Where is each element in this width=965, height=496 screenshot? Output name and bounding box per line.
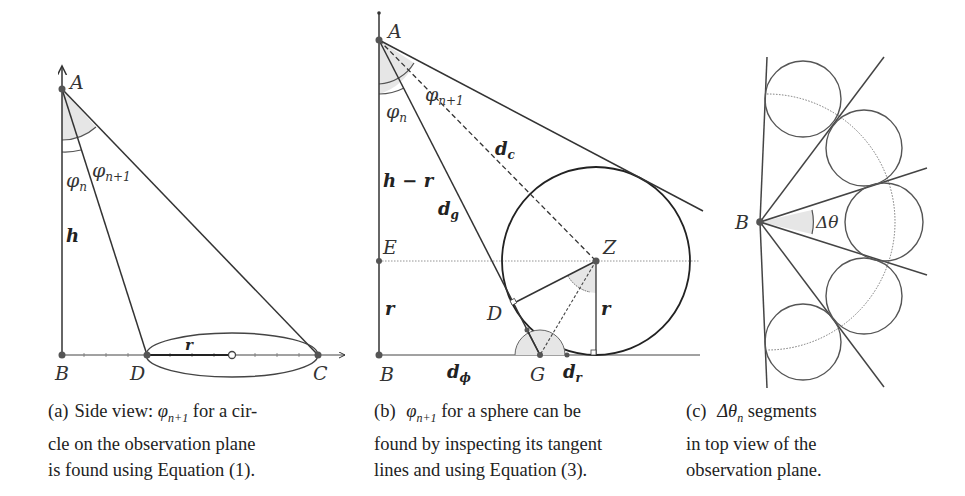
ray-3: [760, 168, 927, 222]
label-B: B: [54, 362, 69, 384]
point-B: [59, 352, 66, 359]
panel-b-diagram: A E B Z D G φn φn+1 dc dg h − r r r dϕ d…: [376, 11, 704, 385]
point-D: [144, 352, 151, 359]
point-A: [59, 86, 66, 93]
caption-b: (b) φn+1 for a sphere can be found by in…: [374, 398, 674, 483]
ray-1: [760, 57, 767, 222]
circle-4: [826, 258, 902, 334]
label-h-minus-r: h − r: [383, 170, 435, 191]
label-r: r: [185, 336, 194, 354]
point-B: [376, 352, 383, 359]
point-E: [376, 258, 382, 264]
label-dg: dg: [438, 198, 459, 222]
ray-6: [760, 222, 767, 388]
line-AG-dg: [379, 40, 540, 355]
angle-phi-n1-fill: [62, 89, 96, 140]
point-A: [376, 37, 383, 44]
caption-a-line3: is found using Equation (1).: [48, 457, 344, 483]
caption-c-line1: (c) Δθn segments: [686, 398, 861, 431]
label-phi-n: φn: [66, 169, 87, 194]
angle-phi-n-arc: [62, 150, 81, 152]
caption-c: (c) Δθn segments in top view of the obse…: [686, 398, 861, 483]
label-phi-n: φn: [386, 100, 407, 125]
caption-a-line1: (a)Side view: φn+1 for a cir-: [48, 398, 344, 431]
label-A: A: [386, 20, 402, 42]
line-AZ-dc: [379, 40, 596, 261]
circle-2: [826, 110, 902, 186]
angle-at-G-fill: [515, 330, 565, 355]
point-Z: [593, 258, 600, 265]
angle-phi-n1-fill: [379, 40, 414, 94]
label-d-r: dr: [563, 361, 584, 385]
label-G: G: [530, 363, 545, 385]
label-B: B: [379, 363, 394, 385]
label-D: D: [129, 362, 145, 384]
line-AD: [62, 89, 147, 355]
label-A: A: [68, 71, 84, 93]
label-r-right: r: [601, 298, 612, 319]
panel-a-diagram: A B D C φn φn+1 h r: [54, 66, 345, 384]
label-phi-n1: φn+1: [425, 83, 464, 108]
circle-5: [765, 304, 841, 380]
ray-5: [760, 222, 884, 387]
caption-c-line2: in top view of the: [686, 431, 861, 457]
label-E: E: [382, 236, 397, 258]
figure-canvas: A B D C φn φn+1 h r: [0, 0, 965, 400]
label-B: B: [734, 211, 749, 233]
label-phi-n1: φn+1: [92, 159, 131, 184]
label-r-left: r: [385, 298, 396, 319]
line-AC: [62, 89, 318, 355]
label-delta-theta: Δθ: [815, 212, 839, 232]
label-d-phi: dϕ: [447, 361, 472, 385]
circle-3: [845, 183, 923, 261]
label-Z: Z: [602, 236, 617, 258]
label-dc: dc: [495, 138, 516, 162]
point-G: [537, 352, 543, 358]
caption-a: (a)Side view: φn+1 for a cir- cle on the…: [48, 398, 344, 483]
label-h: h: [66, 225, 79, 246]
point-C: [315, 352, 322, 359]
caption-a-line2: cle on the observation plane: [48, 431, 344, 457]
panel-c-diagram: B Δθ: [734, 57, 927, 388]
caption-c-line3: observation plane.: [686, 457, 861, 483]
caption-b-line2: found by inspecting its tangent: [374, 431, 674, 457]
point-B: [756, 218, 764, 226]
caption-b-line3: lines and using Equation (3).: [374, 457, 674, 483]
label-C: C: [313, 362, 328, 384]
label-D: D: [486, 302, 502, 324]
caption-b-line1: (b) φn+1 for a sphere can be: [374, 398, 674, 431]
angle-at-Z-fill: [568, 261, 596, 293]
ray-4: [760, 222, 927, 275]
